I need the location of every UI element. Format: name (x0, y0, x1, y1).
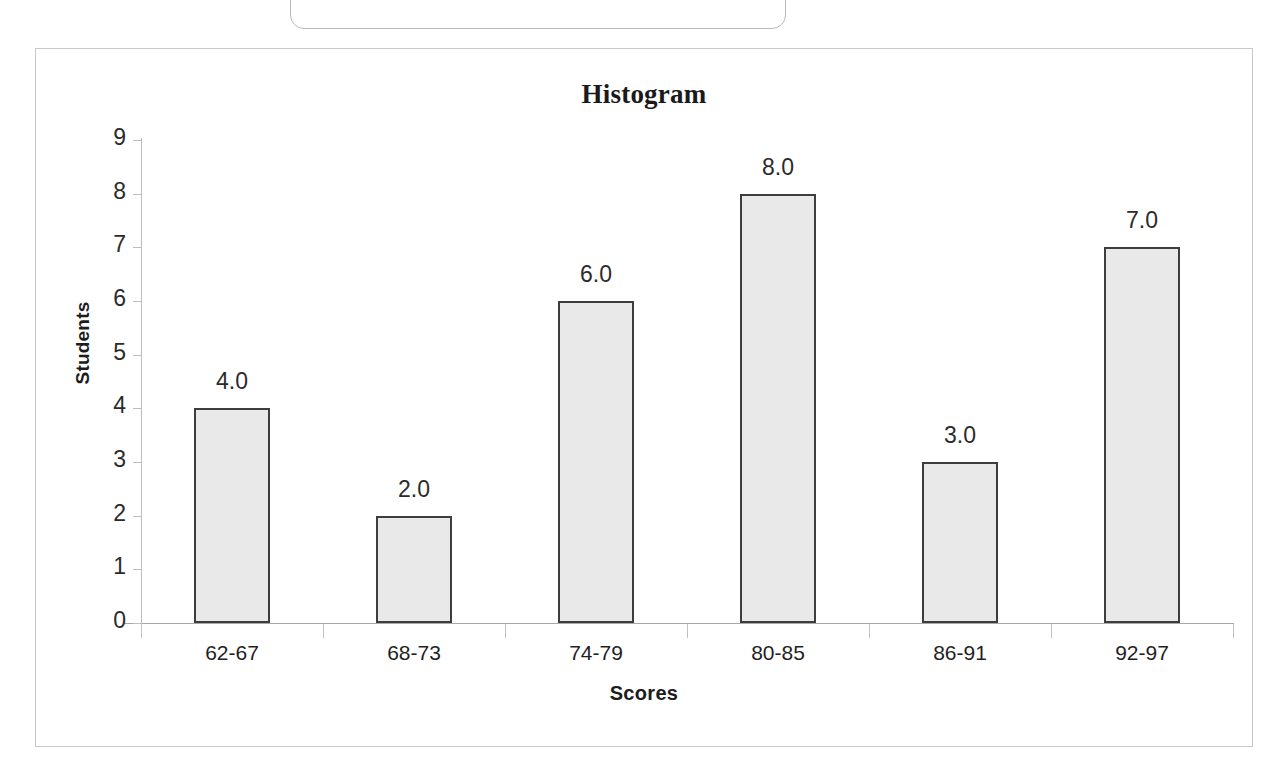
x-axis-line (124, 623, 1234, 624)
x-axis-tick (869, 624, 870, 638)
bar (558, 301, 634, 623)
y-axis-tick (133, 301, 142, 302)
bar-value-label: 7.0 (1097, 207, 1187, 234)
y-axis-tick-label: 7 (86, 231, 126, 258)
x-axis-tick (141, 624, 142, 638)
y-axis-tick (133, 194, 142, 195)
y-axis-tick-label: 0 (86, 607, 126, 634)
chart-title: Histogram (36, 79, 1252, 110)
x-axis-tick (1233, 624, 1234, 638)
x-axis-category-label: 62-67 (139, 641, 325, 665)
bar-value-label: 6.0 (551, 261, 641, 288)
y-axis-tick-label: 1 (86, 553, 126, 580)
y-axis-tick-label: 3 (86, 446, 126, 473)
y-axis-tick-label: 2 (86, 500, 126, 527)
bar (1104, 247, 1180, 623)
y-axis-tick (133, 462, 142, 463)
bar (922, 462, 998, 623)
y-axis-tick (133, 569, 142, 570)
y-axis-tick-label: 9 (86, 124, 126, 151)
bar-value-label: 4.0 (187, 368, 277, 395)
bar-value-label: 2.0 (369, 476, 459, 503)
x-axis-category-label: 80-85 (685, 641, 871, 665)
x-axis-tick (505, 624, 506, 638)
y-axis-tick (133, 247, 142, 248)
clipped-rounded-container (290, 0, 786, 29)
x-axis-category-label: 86-91 (867, 641, 1053, 665)
x-axis-category-label: 74-79 (503, 641, 689, 665)
x-axis-tick (1051, 624, 1052, 638)
y-axis-line (141, 138, 142, 625)
x-axis-title: Scores (36, 682, 1252, 705)
bar (376, 516, 452, 623)
y-axis-tick (133, 140, 142, 141)
x-axis-category-label: 92-97 (1049, 641, 1235, 665)
y-axis-tick-label: 8 (86, 178, 126, 205)
y-axis-tick (133, 516, 142, 517)
y-axis-tick-label: 5 (86, 339, 126, 366)
bar (194, 408, 270, 623)
y-axis-tick-label: 6 (86, 285, 126, 312)
bar-value-label: 8.0 (733, 154, 823, 181)
bar-value-label: 3.0 (915, 422, 1005, 449)
y-axis-tick-label: 4 (86, 392, 126, 419)
x-axis-tick (323, 624, 324, 638)
x-axis-category-label: 68-73 (321, 641, 507, 665)
bar (740, 194, 816, 623)
y-axis-tick (133, 355, 142, 356)
chart-container: Histogram Students 9876543210 4.02.06.08… (35, 48, 1253, 747)
y-axis-tick (133, 408, 142, 409)
x-axis-tick (687, 624, 688, 638)
